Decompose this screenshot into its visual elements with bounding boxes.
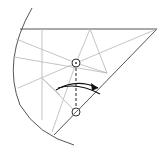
crease-lines [14, 29, 157, 132]
origami-diagram [0, 0, 162, 157]
reference-point-bottom-marker [72, 108, 80, 116]
reference-point-top-marker [72, 59, 80, 67]
fold-arrow-icon [56, 83, 100, 94]
